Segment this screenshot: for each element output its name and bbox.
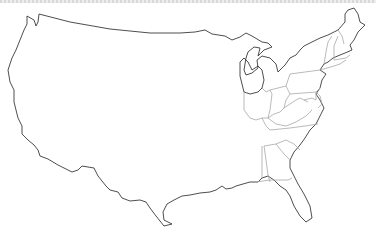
us-national-outline bbox=[8, 8, 365, 226]
state-borders bbox=[244, 30, 350, 182]
michigan-outline bbox=[240, 58, 264, 94]
us-outline-map bbox=[0, 0, 376, 230]
